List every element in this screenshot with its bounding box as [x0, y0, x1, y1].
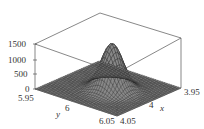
y-tick-5.95: 5.95: [18, 94, 34, 103]
z-tick-500: 500: [14, 70, 28, 79]
y-axis-label: y: [56, 110, 60, 119]
y-tick-6: 6: [65, 104, 70, 113]
x-tick-3.95: 3.95: [184, 88, 200, 97]
z-tick-1000: 1000: [8, 56, 26, 65]
y-tick-6.05: 6.05: [99, 117, 115, 126]
surface-plot: [0, 0, 204, 129]
x-tick-4.05: 4.05: [120, 117, 136, 126]
x-tick-4: 4: [149, 101, 154, 110]
z-tick-1500: 1500: [8, 40, 26, 49]
x-axis-label: x: [160, 104, 164, 113]
